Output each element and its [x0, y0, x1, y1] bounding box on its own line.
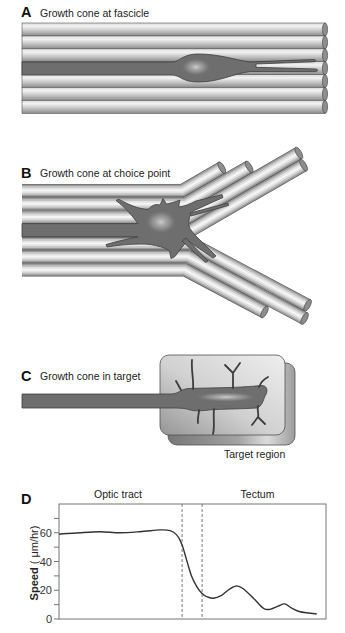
- fascicle-rod: [22, 23, 325, 36]
- speed-curve: [59, 530, 317, 614]
- plot-area: [59, 504, 326, 619]
- panel-title-a: Growth cone at fascicle: [40, 7, 149, 19]
- target-region-label: Target region: [224, 448, 285, 460]
- figure: A Growth cone at fascicle B Growth cone …: [0, 0, 345, 633]
- panel-letter-c: C: [21, 368, 32, 384]
- growth-cone-highlight: [194, 392, 258, 402]
- rod-end-cap: [322, 36, 327, 49]
- y-tick-label: 20: [40, 584, 52, 596]
- rod-end-cap: [322, 49, 327, 62]
- y-axis-ticks: [54, 518, 59, 619]
- growth-cone-highlight: [145, 210, 177, 234]
- rod-end-cap: [322, 23, 327, 36]
- fascicle-rod: [22, 75, 325, 88]
- panel-a: A Growth cone at fascicle: [21, 4, 328, 113]
- y-axis-label: Speed ( μm/hr): [28, 526, 40, 601]
- fascicle-rod: [22, 49, 325, 62]
- y-axis-label-unit: ( μm/hr): [28, 526, 40, 568]
- panel-title-b: Growth cone at choice point: [40, 167, 170, 179]
- growth-cone-highlight: [181, 58, 211, 76]
- region-label-optic-tract: Optic tract: [94, 488, 142, 500]
- rod-end-cap: [322, 75, 327, 88]
- panel-title-c: Growth cone in target: [40, 370, 140, 382]
- lower-branch-rods: [22, 243, 313, 325]
- panel-c: C Growth cone in target Target region: [21, 355, 295, 460]
- rod-end-cap: [322, 100, 327, 113]
- panel-letter-d: D: [21, 491, 31, 507]
- y-tick-label: 60: [40, 527, 52, 539]
- fascicle-rod: [22, 36, 325, 49]
- panel-letter-b: B: [21, 165, 31, 181]
- panel-b: B Growth cone at choice point: [21, 146, 313, 325]
- panel-d: D Optic tract Tectum 0 20 40 60 Speed ( …: [21, 488, 326, 625]
- y-tick-label: 40: [40, 556, 52, 568]
- region-label-tectum: Tectum: [241, 488, 275, 500]
- panel-letter-a: A: [21, 4, 32, 20]
- rod-end-cap: [322, 88, 327, 101]
- fascicle-rod: [22, 100, 325, 113]
- rod-end-cap: [322, 62, 327, 75]
- fascicle-rod: [22, 88, 325, 101]
- y-tick-label: 0: [46, 613, 52, 625]
- y-axis-label-quantity: Speed: [28, 567, 40, 600]
